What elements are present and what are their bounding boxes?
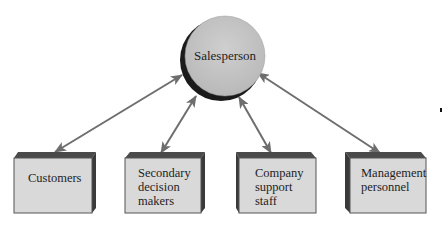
company-label-line-1: Company: [255, 166, 304, 180]
management-label-line-1: Management: [361, 166, 426, 180]
scan-speck: [440, 108, 442, 112]
customers-label-line-1: Customers: [28, 171, 81, 185]
secondary-decision-makers-label: Secondary decision makers: [138, 166, 191, 208]
salesperson-label: Salesperson: [185, 48, 265, 64]
secondary-label-line-1: Secondary: [138, 166, 191, 180]
edge-customers: [55, 75, 182, 152]
company-label-line-2: support: [255, 180, 304, 194]
company-label-line-3: staff: [255, 194, 304, 208]
management-label-line-2: personnel: [361, 180, 426, 194]
company-support-staff-label: Company support staff: [255, 166, 304, 208]
edge-management-personnel: [258, 73, 380, 153]
edge-secondary-decision-makers: [161, 96, 196, 153]
diagram: Salesperson Customers Secondary decision…: [0, 0, 447, 228]
secondary-label-line-3: makers: [138, 194, 191, 208]
customers-label: Customers: [28, 171, 81, 185]
edge-company-support-staff: [239, 97, 271, 153]
secondary-label-line-2: decision: [138, 180, 191, 194]
management-personnel-label: Management personnel: [361, 166, 426, 194]
